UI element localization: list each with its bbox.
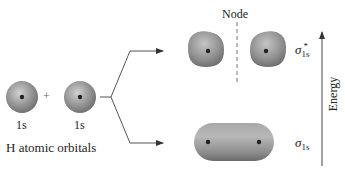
energy-label-wrap: Energy — [313, 88, 345, 102]
node-label: Node — [222, 8, 248, 20]
label-1s-right: 1s — [74, 119, 85, 131]
combination-arrows — [100, 51, 163, 143]
h-1s-orbital-right — [64, 81, 96, 113]
plus-sign: + — [43, 90, 50, 102]
h-1s-orbital-left — [6, 81, 38, 113]
label-1s-left: 1s — [16, 119, 27, 131]
energy-label: Energy — [327, 74, 339, 114]
bonding-orbital — [194, 123, 274, 161]
antibonding-star: * — [303, 41, 308, 51]
atomic-orbitals-caption: H atomic orbitals — [6, 141, 96, 154]
bonding-label: σ1s — [295, 135, 309, 151]
antibonding-label: σ1s* — [295, 42, 314, 58]
bonding-subscript: 1s — [301, 142, 309, 152]
